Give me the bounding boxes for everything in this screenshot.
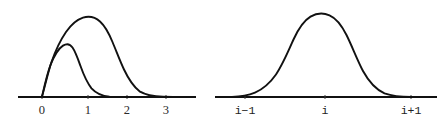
left-tick-label-3: 3 [163,104,169,117]
right-tick-label-i-minus-1: i−1 [235,105,256,117]
left-tick-label-2: 2 [124,104,130,117]
tall-skewed-curve [42,17,186,97]
right-tick-label-i: i [322,105,329,117]
left-panel-plot [0,0,214,133]
figure-canvas: 0 1 2 3 i−1 i i+1 [0,0,446,133]
chart-panel-right: i−1 i i+1 [214,0,446,133]
bell-curve [232,14,429,97]
left-tick-label-1: 1 [85,104,91,117]
right-tick-label-i-plus-1: i+1 [401,105,422,117]
chart-panel-left: 0 1 2 3 [0,0,214,133]
left-tick-label-0: 0 [39,104,45,117]
